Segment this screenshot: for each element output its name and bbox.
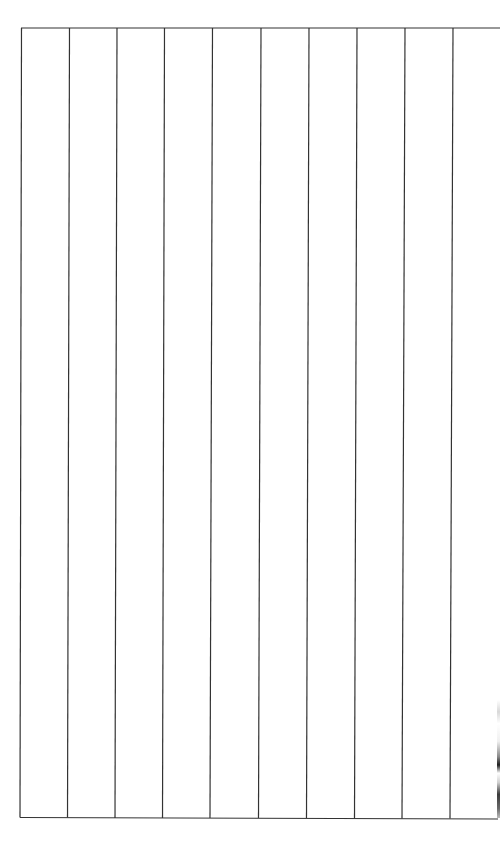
column-line-1 — [20, 28, 22, 818]
column-line-5 — [210, 28, 213, 818]
blank-column-grid — [0, 0, 500, 856]
column-line-3 — [115, 28, 117, 818]
column-line-6 — [259, 28, 262, 818]
column-line-10 — [450, 28, 453, 819]
column-line-8 — [355, 28, 358, 819]
column-line-7 — [307, 28, 310, 818]
column-line-2 — [68, 28, 70, 818]
column-line-4 — [163, 28, 165, 818]
column-line-9 — [402, 28, 405, 819]
grid-lines — [0, 0, 500, 856]
